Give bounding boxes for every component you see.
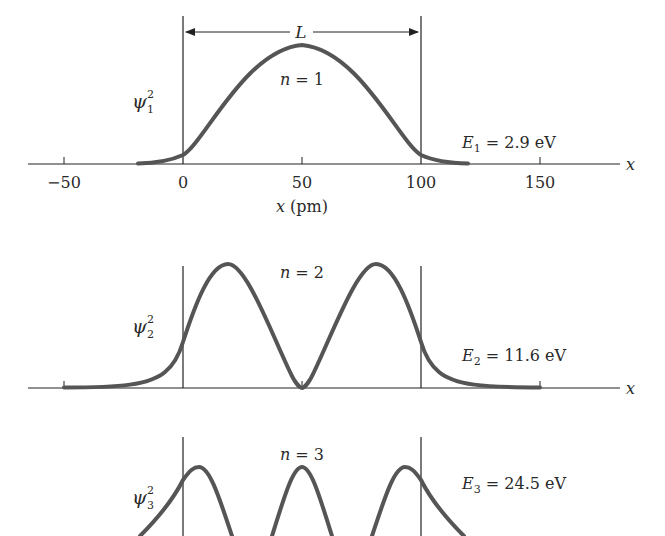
n-label-n1: n = 1 xyxy=(280,70,324,89)
y-label-n3: ψ23 xyxy=(132,484,154,512)
x-tick-label: 150 xyxy=(525,173,556,192)
panel-n1: L x −50 0 50 100 150 x (pm) n = 1 ψ21 E1… xyxy=(28,16,635,216)
n-label-n2: n = 2 xyxy=(280,263,324,282)
x-tick-label: 50 xyxy=(292,173,312,192)
energy-label-n2: E2 = 11.6 eV xyxy=(461,346,566,368)
energy-label-n3: E3 = 24.5 eV xyxy=(461,474,566,496)
x-axis-variable-n1: x xyxy=(626,155,635,174)
n-label-n3: n = 3 xyxy=(280,445,324,464)
panel-n2: x n = 2 ψ22 E2 = 11.6 eV xyxy=(28,263,635,398)
energy-label-n1: E1 = 2.9 eV xyxy=(461,133,556,155)
x-tick-label: 100 xyxy=(406,173,437,192)
y-label-n1: ψ21 xyxy=(132,88,154,116)
probability-curve-n3 xyxy=(140,467,464,536)
x-tick-label: −50 xyxy=(47,173,81,192)
y-label-n2: ψ22 xyxy=(132,313,154,341)
box-length-label: L xyxy=(294,22,306,42)
x-axis-variable-n2: x xyxy=(626,379,635,398)
x-axis-title: x (pm) xyxy=(276,197,328,216)
quantum-well-probability-figure: L x −50 0 50 100 150 x (pm) n = 1 ψ21 E1… xyxy=(0,0,665,536)
panel-n3: n = 3 ψ23 E3 = 24.5 eV xyxy=(132,437,566,536)
probability-curve-n1 xyxy=(138,45,468,164)
x-tick-label: 0 xyxy=(178,173,188,192)
